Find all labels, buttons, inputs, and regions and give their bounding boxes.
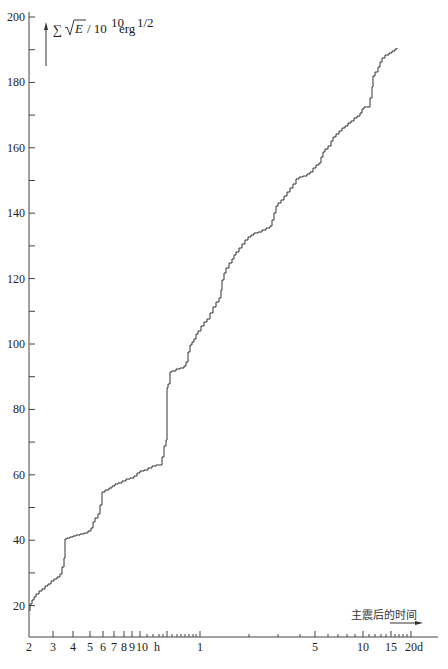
x-tick-8h: 8 — [121, 640, 127, 654]
x-tick-5h: 5 — [87, 640, 93, 654]
y-tick-60: 60 — [13, 468, 25, 482]
y-arrowhead-icon — [44, 22, 48, 30]
y-axis-label: ∑ E / 10 10 erg 1/2 — [44, 15, 154, 66]
y-tick-160: 160 — [7, 141, 25, 155]
y-label-slash: / 10 — [87, 21, 107, 36]
x-tick-10d: 10 — [357, 640, 369, 654]
x-tick-4h: 4 — [70, 640, 76, 654]
x-tick-9h: 9 — [129, 640, 135, 654]
x-label-text: 主震后的时间 — [351, 608, 417, 622]
cumulative-curve — [30, 48, 397, 611]
x-tick-2h: 2 — [26, 640, 32, 654]
y-tick-20: 20 — [13, 599, 25, 613]
y-tick-labels: 200 180 160 140 120 100 80 60 40 20 — [7, 10, 25, 613]
x-tick-7h: 7 — [111, 640, 117, 654]
y-tick-120: 120 — [7, 272, 25, 286]
y-tick-200: 200 — [7, 10, 25, 24]
y-ticks — [29, 17, 35, 606]
y-tick-40: 40 — [13, 533, 25, 547]
x-axis-label: 主震后的时间 — [351, 608, 423, 625]
x-tick-6h: 6 — [100, 640, 106, 654]
y-label-e: E — [74, 21, 83, 36]
y-label-unit-exp: 1/2 — [137, 15, 154, 30]
x-tick-10h: 10 — [136, 640, 148, 654]
chart-canvas: 200 180 160 140 120 100 80 60 40 20 — [0, 0, 448, 669]
x-tick-15d: 15 — [385, 640, 397, 654]
x-ticks — [53, 631, 411, 637]
y-tick-100: 100 — [7, 337, 25, 351]
y-tick-80: 80 — [13, 402, 25, 416]
x-tick-3h: 3 — [50, 640, 56, 654]
x-tick-5d: 5 — [312, 640, 318, 654]
x-tick-labels: 2 3 4 5 6 7 8 9 10 h 1 5 10 15 20d — [26, 640, 423, 654]
x-tick-20d: 20d — [405, 640, 423, 654]
y-tick-180: 180 — [7, 75, 25, 89]
y-label-sum: ∑ — [53, 22, 62, 37]
x-tick-1d: 1 — [197, 640, 203, 654]
x-arrowhead-icon — [415, 621, 423, 625]
y-tick-140: 140 — [7, 206, 25, 220]
y-label-unit: erg — [119, 21, 136, 36]
x-tick-h-unit: h — [154, 640, 160, 654]
